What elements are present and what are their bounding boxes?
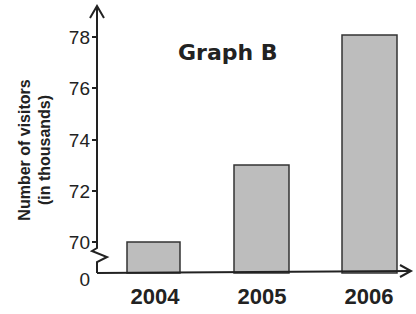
- bar-chart: 78 76 74 72 70 0 2004 2005 2006 Graph B …: [0, 0, 416, 314]
- ytick-label: 0: [79, 269, 90, 290]
- xtick-label: 2006: [345, 284, 394, 309]
- svg-text:Number of visitors: Number of visitors: [16, 79, 33, 220]
- xtick-label: 2005: [238, 284, 287, 309]
- svg-text:(in thousands): (in thousands): [36, 95, 53, 205]
- ytick-label: 76: [69, 78, 90, 99]
- bar-2005: [234, 165, 289, 273]
- xtick-label: 2004: [131, 284, 181, 309]
- y-axis-label: Number of visitors (in thousands): [16, 79, 53, 220]
- y-axis: [90, 6, 107, 273]
- chart-title: Graph B: [178, 40, 278, 65]
- bar-2006: [342, 35, 397, 273]
- ytick-label: 74: [69, 130, 91, 151]
- ytick-label: 72: [69, 181, 90, 202]
- bar-2004: [127, 242, 180, 273]
- ytick-label: 78: [69, 27, 90, 48]
- ytick-label: 70: [69, 232, 90, 253]
